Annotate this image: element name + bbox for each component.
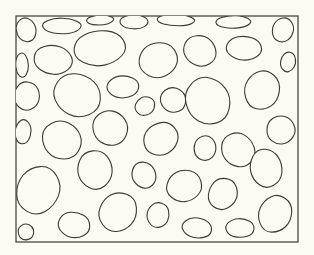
cell [120, 15, 148, 29]
cell [280, 52, 295, 72]
cell [34, 45, 72, 74]
cell [259, 195, 292, 232]
cell [144, 122, 178, 155]
foam-cell-diagram [0, 0, 314, 255]
cell [87, 15, 114, 25]
cell [250, 149, 282, 187]
cell [182, 218, 211, 238]
cell [17, 167, 60, 214]
cell [99, 193, 137, 232]
cell [272, 18, 293, 42]
cell [147, 203, 169, 228]
cell [14, 82, 39, 110]
cell-structure-figure [0, 0, 314, 255]
cell [245, 71, 280, 109]
cells-group [14, 14, 295, 240]
cell [167, 170, 202, 201]
cell [185, 77, 229, 124]
cell [15, 120, 31, 144]
cell [54, 74, 101, 117]
cell [16, 18, 36, 42]
cell [226, 36, 261, 60]
cell [139, 43, 177, 78]
cell [267, 116, 295, 144]
cell [208, 178, 237, 209]
cell [93, 111, 128, 146]
cell [74, 31, 126, 66]
cell [184, 36, 216, 67]
cell [58, 212, 89, 237]
cell [78, 151, 112, 190]
cell [16, 53, 29, 77]
cell [216, 16, 251, 28]
cell [160, 88, 185, 113]
cell [222, 133, 255, 167]
cell [107, 76, 139, 98]
cell [43, 18, 82, 34]
cell [135, 97, 155, 116]
cell [42, 121, 81, 159]
cell [18, 224, 34, 240]
cell [132, 162, 156, 188]
cell [226, 219, 254, 238]
cell [194, 136, 216, 161]
